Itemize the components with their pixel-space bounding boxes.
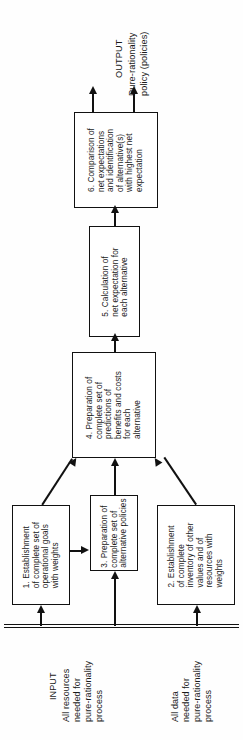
input-bus-line [4,624,239,628]
process-box-3[interactable]: 3. Preparation of complete set of altern… [90,495,138,571]
input-resources-label: All resources needed for pure-rationalit… [61,661,105,722]
arrow-bus-to-box1-head [37,605,45,613]
process-box-3-label: 3. Preparation of complete set of altern… [100,498,129,567]
process-box-1[interactable]: 1. Establishment of complete set of oper… [12,505,70,605]
process-box-4[interactable]: 4. Preparation of complete set of predic… [72,352,156,458]
output-arrow-left-shaft [92,93,94,113]
process-box-4-label: 4. Preparation of complete set of predic… [85,371,142,439]
arrow-box3-to-box4-shaft [114,466,116,495]
input-heading: INPUT [48,673,59,701]
process-box-2-label: 2. Establishment of complete inventory o… [167,522,224,587]
arrow-box2-to-box4-shaft [163,457,196,505]
arrow-bus-to-box2-head [193,605,201,613]
output-heading: OUTPUT [114,40,125,78]
arrow-box1-to-box4-shaft [41,458,72,505]
input-data-label: All data needed for pure-rationality pro… [170,661,214,722]
output-arrow-right-head [130,86,138,94]
output-arrow-right-shaft [133,93,135,113]
arrow-box2-to-box4-head [151,456,162,467]
process-box-5[interactable]: 5. Calculation of net expectation for ea… [89,226,140,337]
output-arrow-left-head [89,86,97,94]
arrow-bus-to-box3-head [111,571,119,579]
process-box-1-label: 1. Establishment of complete set of oper… [22,522,60,588]
process-box-5-label: 5. Calculation of net expectation for ea… [100,247,129,316]
arrow-box5-to-box6-head [111,205,119,213]
process-box-2[interactable]: 2. Establishment of complete inventory o… [157,505,235,605]
arrow-bus-to-box3-shaft [114,578,116,626]
process-box-6-label: 6. Comparison of net expectations and id… [87,128,144,192]
output-line-2: policy (policies) [139,31,150,96]
arrow-box3-to-box4-head [111,458,119,466]
process-box-6[interactable]: 6. Comparison of net expectations and id… [74,112,158,208]
arrow-box1-to-box3-head [81,546,89,554]
arrow-box4-to-box5-head [111,333,119,341]
flowchart-canvas: OUTPUT Pure-rationality policy (policies… [0,0,243,740]
